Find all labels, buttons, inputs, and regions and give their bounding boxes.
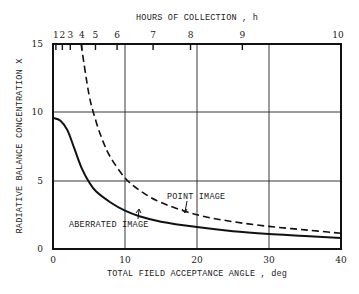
y-axis-title: RADIATIVE BALANCE CONCENTRATION X	[15, 59, 25, 234]
aberrated-image-arrow	[138, 210, 139, 219]
top-axis-title: HOURS OF COLLECTION , h	[136, 13, 258, 23]
top-tick-label: 6	[114, 30, 120, 40]
y-tick-label: 15	[32, 39, 44, 49]
y-tick-label: 5	[37, 176, 43, 186]
point-image-label: POINT IMAGE	[167, 192, 225, 202]
top-tick-label: 10	[332, 30, 344, 40]
aberrated-image-label: ABERRATED IMAGE	[69, 220, 149, 230]
top-axis-tick-labels: 12345678910	[53, 30, 344, 40]
top-tick-label: 5	[93, 30, 99, 40]
x-tick-label: 40	[335, 255, 347, 265]
x-axis-title: TOTAL FIELD ACCEPTANCE ANGLE , deg	[107, 269, 287, 279]
x-tick-label: 20	[191, 255, 203, 265]
top-tick-label: 2	[59, 30, 65, 40]
y-axis-tick-labels: 051015	[32, 39, 44, 254]
top-tick-label: 3	[67, 30, 73, 40]
y-tick-label: 10	[32, 107, 44, 117]
top-tick-label: 4	[79, 30, 85, 40]
x-axis-tick-labels: 010203040	[50, 255, 347, 265]
top-tick-label: 7	[150, 30, 156, 40]
x-tick-label: 10	[119, 255, 131, 265]
chart: 12345678910 010203040 051015 TOTAL FIELD…	[0, 0, 359, 294]
top-tick-label: 1	[53, 30, 59, 40]
top-tick-label: 9	[239, 30, 245, 40]
y-tick-label: 0	[37, 244, 43, 254]
x-tick-label: 0	[50, 255, 56, 265]
gridlines	[53, 44, 341, 249]
top-tick-label: 8	[188, 30, 194, 40]
point-image-curve	[81, 44, 341, 233]
x-tick-label: 30	[263, 255, 275, 265]
